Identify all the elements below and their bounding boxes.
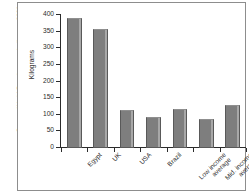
bar — [93, 29, 108, 148]
y-tick-label: 250 — [32, 60, 54, 67]
x-axis-label-line: Egypt — [86, 151, 103, 168]
y-tick-label: 350 — [32, 27, 54, 34]
bar-series — [61, 14, 246, 148]
bar — [225, 105, 240, 148]
y-tick-label: 200 — [32, 77, 54, 84]
y-tick: 150 — [56, 97, 60, 98]
bar — [67, 18, 82, 148]
y-tick-label: 100 — [32, 110, 54, 117]
y-tick: 300 — [56, 47, 60, 48]
y-tick: 350 — [56, 31, 60, 32]
bar — [173, 109, 188, 148]
y-tick-label: 0 — [32, 143, 54, 150]
x-axis-label-line: UK — [110, 151, 121, 162]
y-tick: 250 — [56, 64, 60, 65]
bar — [120, 110, 135, 148]
x-axis-label-line: Brazil — [165, 151, 182, 168]
x-axis-labels: EgyptUKUSABrazilLow incomeaverageMid. in… — [61, 151, 246, 193]
bar — [199, 119, 214, 148]
bar — [146, 117, 161, 148]
chart-screenshot: Source: World Development Indicators 200… — [0, 0, 249, 193]
x-axis-label: Egypt — [86, 151, 103, 168]
y-tick-label: 150 — [32, 93, 54, 100]
y-tick: 50 — [56, 130, 60, 131]
x-axis-label-line: USA — [138, 151, 153, 166]
y-tick-label: 300 — [32, 43, 54, 50]
y-tick: 0 — [56, 147, 60, 148]
x-axis-label: USA — [138, 151, 153, 166]
y-tick-label: 50 — [32, 126, 54, 133]
x-axis-label: Low incomeaverage — [197, 151, 232, 186]
y-tick: 400 — [56, 14, 60, 15]
x-axis-label: Brazil — [165, 151, 182, 168]
y-tick-label: 400 — [32, 10, 54, 17]
chart-frame: Kilograms 050100150200250300350400 Egypt… — [17, 2, 246, 191]
y-tick: 200 — [56, 81, 60, 82]
y-tick: 100 — [56, 114, 60, 115]
x-axis-label: UK — [110, 151, 122, 163]
